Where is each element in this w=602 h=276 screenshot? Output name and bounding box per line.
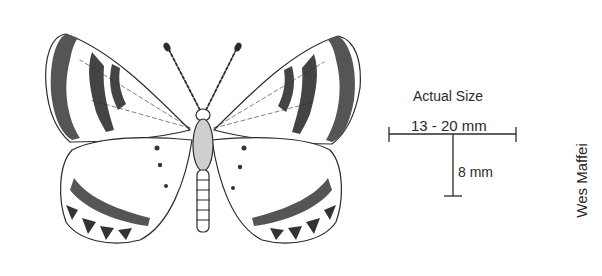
- right-hindwing: [212, 138, 341, 243]
- right-forewing: [214, 36, 360, 144]
- butterfly-illustration: [0, 0, 602, 276]
- body-length-label: 8 mm: [458, 164, 493, 180]
- actual-size-title: Actual Size: [413, 88, 483, 104]
- left-hindwing: [61, 138, 192, 243]
- scale-bar: [389, 127, 516, 196]
- artist-credit: Wes Maffei: [573, 136, 590, 226]
- butterfly-body: [193, 109, 213, 232]
- wingspan-label: 13 - 20 mm: [411, 117, 487, 134]
- antennae: [163, 42, 242, 110]
